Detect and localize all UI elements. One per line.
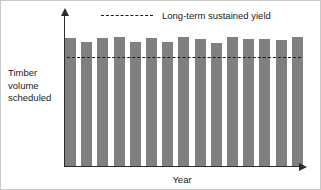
- chart-figure: Long-term sustained yield Timber volume …: [0, 0, 321, 190]
- y-axis-title-line-2: volume: [8, 80, 63, 93]
- bar: [195, 39, 206, 166]
- bar-series: [65, 21, 303, 166]
- plot-area: [65, 21, 303, 166]
- bar: [276, 40, 287, 166]
- sustained-yield-reference-line: [67, 57, 301, 58]
- bar: [211, 43, 222, 166]
- y-axis-title-line-3: scheduled: [8, 92, 63, 105]
- y-axis-title-line-1: Timber: [8, 67, 63, 80]
- bar: [243, 39, 254, 166]
- x-axis-arrow-icon: [299, 163, 307, 171]
- bar: [81, 42, 92, 166]
- x-axis-title: Year: [64, 175, 300, 185]
- bar: [227, 37, 238, 166]
- legend-dashed-line-swatch-icon: [101, 15, 153, 16]
- bar: [130, 42, 141, 166]
- y-axis-title: Timber volume scheduled: [8, 67, 63, 105]
- bar: [292, 37, 303, 166]
- x-axis-line: [64, 166, 300, 167]
- bar: [178, 37, 189, 166]
- bar: [259, 39, 270, 166]
- bar: [162, 42, 173, 166]
- bar: [114, 37, 125, 166]
- chart-legend: Long-term sustained yield: [101, 11, 271, 21]
- legend-entry-label: Long-term sustained yield: [162, 11, 271, 21]
